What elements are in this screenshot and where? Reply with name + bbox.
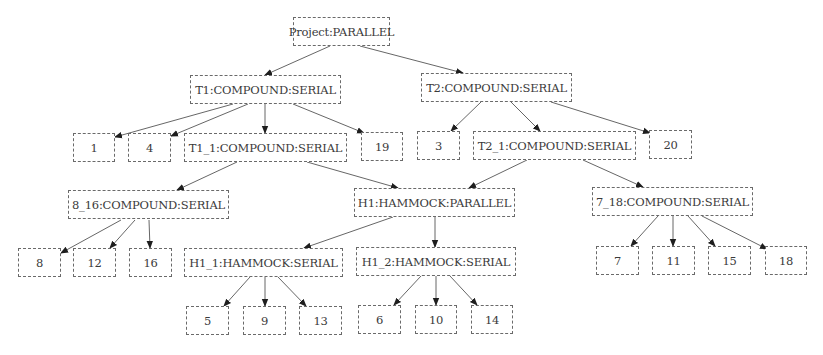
node-label: 15	[722, 254, 736, 268]
edge-h1_1-to-n5	[224, 277, 250, 306]
node-project: Project:PARALLEL	[293, 17, 390, 46]
edge-h1_2-to-n14	[450, 276, 477, 305]
node-n19: 19	[361, 132, 403, 161]
node-label: 3	[435, 139, 442, 153]
node-label: 8_16:COMPOUND:SERIAL	[72, 198, 225, 212]
edge-t2-to-n3	[451, 102, 481, 131]
node-label: 18	[779, 254, 793, 268]
node-label: 9	[261, 314, 268, 328]
edge-project-to-t2	[360, 46, 463, 73]
edge-t2_1-to-c7_18	[583, 160, 643, 187]
node-n6: 6	[358, 305, 401, 334]
node-n12: 12	[73, 248, 116, 277]
node-n8: 8	[18, 248, 61, 277]
node-h1: H1:HAMMOCK:PARALLEL	[354, 188, 515, 217]
node-label: 7	[614, 254, 621, 268]
edge-c7_18-to-n7	[631, 216, 658, 246]
node-n4: 4	[128, 133, 171, 162]
node-t2: T2:COMPOUND:SERIAL	[421, 73, 572, 102]
edge-h1_2-to-n6	[394, 276, 421, 305]
task-tree-diagram: Project:PARALLELT1:COMPOUND:SERIALT2:COM…	[0, 0, 823, 355]
node-label: T1_1:COMPOUND:SERIAL	[189, 141, 342, 155]
edge-t1_1-to-c8_16	[177, 162, 237, 190]
edge-c7_18-to-n18	[702, 216, 767, 249]
node-label: 4	[146, 141, 153, 155]
node-n10: 10	[415, 305, 457, 334]
node-t1: T1:COMPOUND:SERIAL	[190, 75, 341, 104]
edge-h1_1-to-n13	[278, 277, 306, 306]
edge-t2-to-t2_1	[511, 102, 540, 131]
node-n1: 1	[73, 133, 115, 162]
node-c7_18: 7_18:COMPOUND:SERIAL	[592, 187, 753, 216]
node-label: 11	[666, 254, 680, 268]
node-n3: 3	[417, 131, 460, 160]
node-c8_16: 8_16:COMPOUND:SERIAL	[68, 190, 229, 219]
node-h1_1: H1_1:HAMMOCK:SERIAL	[184, 248, 343, 277]
node-label: 14	[485, 313, 499, 327]
edges-layer	[0, 0, 823, 355]
node-label: Project:PARALLEL	[289, 25, 395, 39]
node-n14: 14	[471, 305, 513, 334]
edge-t2_1-to-h1	[469, 160, 527, 188]
edge-t1-to-n4	[171, 104, 248, 136]
node-label: T2:COMPOUND:SERIAL	[426, 81, 567, 95]
node-n5: 5	[186, 306, 229, 335]
node-n18: 18	[765, 246, 807, 275]
edge-h1-to-h1_1	[304, 217, 393, 248]
node-h1_2: H1_2:HAMMOCK:SERIAL	[356, 247, 516, 276]
node-label: 7_18:COMPOUND:SERIAL	[596, 195, 749, 209]
node-t2_1: T2_1:COMPOUND:SERIAL	[473, 131, 636, 160]
node-label: 12	[87, 256, 101, 270]
node-n11: 11	[652, 246, 695, 275]
node-label: 1	[90, 141, 97, 155]
node-n20: 20	[649, 130, 692, 159]
node-label: 13	[313, 314, 327, 328]
node-label: H1:HAMMOCK:PARALLEL	[358, 196, 511, 210]
node-label: 10	[429, 313, 443, 327]
node-label: 5	[204, 314, 211, 328]
node-t1_1: T1_1:COMPOUND:SERIAL	[184, 133, 347, 162]
edge-t1_1-to-h1	[307, 162, 398, 188]
node-label: 20	[663, 138, 677, 152]
node-label: T2_1:COMPOUND:SERIAL	[478, 139, 631, 153]
node-n13: 13	[299, 306, 342, 335]
node-label: 19	[375, 140, 389, 154]
node-label: 8	[36, 256, 43, 270]
edge-t2-to-n20	[551, 102, 650, 133]
node-n9: 9	[243, 306, 286, 335]
edge-project-to-t1	[265, 46, 330, 75]
edge-c8_16-to-n16	[149, 220, 150, 248]
node-n15: 15	[708, 246, 751, 275]
node-label: T1:COMPOUND:SERIAL	[195, 83, 336, 97]
node-n16: 16	[129, 248, 172, 277]
node-label: H1_1:HAMMOCK:SERIAL	[189, 256, 337, 270]
node-n7: 7	[596, 246, 639, 275]
edge-t1-to-n19	[293, 104, 364, 133]
node-label: 16	[143, 256, 157, 270]
node-label: 6	[376, 313, 383, 327]
node-label: H1_2:HAMMOCK:SERIAL	[362, 255, 510, 269]
